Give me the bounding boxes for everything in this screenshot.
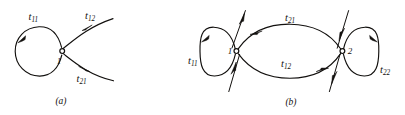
panel-b-label-t12: t12: [281, 58, 292, 71]
panel-a-node-1-label: 1: [57, 56, 62, 66]
panel-b-node-1-label: 1: [228, 46, 233, 56]
panel-b-label-t11: t11: [188, 55, 198, 68]
panel-b-node2-stub-lower: [329, 54, 340, 91]
panel-a-self-loop-t11: [15, 27, 62, 76]
panel-a: 1 t11 t12 t21 (a): [15, 10, 113, 107]
panel-a-label-t21: t21: [77, 73, 87, 86]
panel-a-node-1-dot: [60, 49, 65, 54]
panel-a-caption: (a): [55, 96, 66, 107]
panel-a-edge-t21: [63, 53, 114, 80]
panel-b-label-t22: t22: [380, 64, 391, 77]
panel-b-label-t21: t21: [285, 12, 295, 25]
panel-b-node2-stub-upper: [337, 11, 348, 49]
panel-a-edge-t21-arrowhead: [79, 66, 90, 71]
panel-b-self-loop-t11-arrowhead: [202, 35, 210, 42]
panel-b-node-1-dot: [234, 49, 239, 54]
panel-b-caption: (b): [285, 97, 296, 108]
panel-a-edge-t12-arrowhead: [82, 25, 92, 31]
panel-b-node-2-dot: [340, 49, 345, 54]
panel-b: 1 2 t11 t21 t12 t22 (b): [188, 11, 391, 108]
panel-b-node-2-label: 2: [348, 46, 353, 56]
panel-b-edge-t21: [238, 24, 340, 49]
panel-b-self-loop-t22-arrowhead: [370, 35, 378, 42]
signal-flow-graph-figure: 1 t11 t12 t21 (a): [0, 0, 405, 115]
panel-b-node1-stub-upper-arrowhead: [239, 13, 244, 24]
figure-container: 1 t11 t12 t21 (a): [0, 0, 405, 115]
panel-b-node2-stub-upper-arrowhead: [339, 28, 345, 40]
panel-a-label-t11: t11: [29, 11, 39, 24]
panel-a-label-t12: t12: [85, 10, 96, 23]
